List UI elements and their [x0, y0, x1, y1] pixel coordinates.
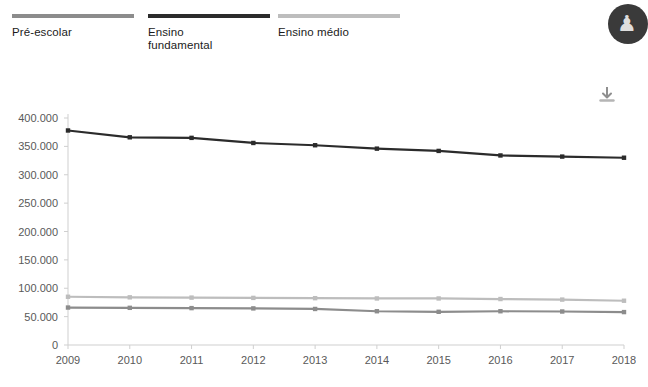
data-point-marker[interactable]: [622, 310, 626, 314]
y-tick-label: 100.000: [18, 282, 58, 294]
legend-label-ensino-fundamental: Ensino fundamental: [148, 26, 270, 52]
x-axis-ticks: 2009201020112012201320142015201620172018: [56, 345, 636, 366]
y-axis-ticks: 050.000100.000150.000200.000250.000300.0…: [18, 112, 68, 351]
data-point-marker[interactable]: [251, 306, 255, 310]
data-point-marker[interactable]: [66, 128, 70, 132]
x-tick-label: 2010: [118, 354, 142, 366]
data-point-marker[interactable]: [128, 306, 132, 310]
data-point-marker[interactable]: [313, 296, 317, 300]
series-line: [68, 297, 624, 301]
data-point-marker[interactable]: [560, 297, 564, 301]
data-point-marker[interactable]: [189, 295, 193, 299]
x-tick-label: 2018: [612, 354, 636, 366]
data-point-marker[interactable]: [560, 309, 564, 313]
y-tick-label: 200.000: [18, 226, 58, 238]
data-point-marker[interactable]: [560, 154, 564, 158]
data-point-marker[interactable]: [436, 310, 440, 314]
data-point-marker[interactable]: [251, 296, 255, 300]
y-tick-label: 0: [52, 339, 58, 351]
y-tick-label: 150.000: [18, 254, 58, 266]
data-point-marker[interactable]: [498, 297, 502, 301]
data-point-marker[interactable]: [128, 295, 132, 299]
data-point-marker[interactable]: [313, 307, 317, 311]
data-point-marker[interactable]: [436, 149, 440, 153]
data-point-marker[interactable]: [189, 306, 193, 310]
data-point-marker[interactable]: [189, 136, 193, 140]
x-tick-label: 2009: [56, 354, 80, 366]
y-tick-label: 350.000: [18, 140, 58, 152]
legend-label-pre-escolar: Pré-escolar: [12, 26, 134, 39]
legend-label-ensino-medio: Ensino médio: [278, 26, 400, 39]
data-point-marker[interactable]: [498, 309, 502, 313]
series-line: [68, 130, 624, 157]
data-point-marker[interactable]: [622, 299, 626, 303]
legend-swatch-pre-escolar: [12, 14, 134, 18]
y-tick-label: 250.000: [18, 197, 58, 209]
x-tick-label: 2013: [303, 354, 327, 366]
data-point-marker[interactable]: [66, 305, 70, 309]
avatar-glyph: ♟: [617, 11, 637, 37]
legend-swatch-ensino-fundamental: [148, 14, 270, 18]
series-line: [68, 308, 624, 313]
data-point-marker[interactable]: [375, 309, 379, 313]
data-point-marker[interactable]: [313, 143, 317, 147]
legend-swatch-ensino-medio: [278, 14, 400, 18]
legend-item-pre-escolar[interactable]: Pré-escolar: [12, 14, 134, 39]
line-chart: 050.000100.000150.000200.000250.000300.0…: [0, 62, 636, 387]
x-tick-label: 2014: [365, 354, 389, 366]
x-tick-label: 2016: [488, 354, 512, 366]
chart-canvas: 050.000100.000150.000200.000250.000300.0…: [0, 62, 636, 387]
data-point-marker[interactable]: [66, 295, 70, 299]
y-tick-label: 300.000: [18, 169, 58, 181]
y-tick-label: 400.000: [18, 112, 58, 124]
data-point-marker[interactable]: [375, 296, 379, 300]
data-point-marker[interactable]: [622, 156, 626, 160]
legend-item-ensino-medio[interactable]: Ensino médio: [278, 14, 400, 39]
data-point-marker[interactable]: [436, 296, 440, 300]
x-tick-label: 2015: [426, 354, 450, 366]
x-tick-label: 2017: [550, 354, 574, 366]
user-avatar-icon[interactable]: ♟: [608, 4, 648, 44]
data-point-marker[interactable]: [498, 153, 502, 157]
x-tick-label: 2012: [241, 354, 265, 366]
data-point-marker[interactable]: [128, 135, 132, 139]
chart-series: [66, 128, 626, 314]
data-point-marker[interactable]: [375, 146, 379, 150]
y-tick-label: 50.000: [24, 311, 58, 323]
legend-item-ensino-fundamental[interactable]: Ensino fundamental: [148, 14, 270, 52]
chart-legend: Pré-escolar Ensino fundamental Ensino mé…: [0, 0, 636, 62]
x-tick-label: 2011: [180, 354, 204, 366]
data-point-marker[interactable]: [251, 141, 255, 145]
